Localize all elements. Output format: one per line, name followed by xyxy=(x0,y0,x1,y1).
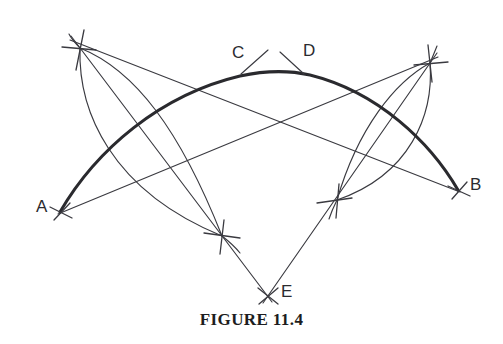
label-point-b: B xyxy=(470,176,481,193)
tick-a-stroke-2 xyxy=(54,203,70,220)
label-point-c: C xyxy=(232,44,244,61)
main-arc-a-to-b xyxy=(60,72,458,212)
chord-b-to-upper-left xyxy=(70,40,460,192)
figure-caption: FIGURE 11.4 xyxy=(0,310,503,330)
figure-container: A B C D E FIGURE 11.4 xyxy=(0,0,503,344)
label-point-a: A xyxy=(36,198,47,215)
chord-a-to-upper-right xyxy=(58,57,438,214)
stub-at-c xyxy=(241,50,268,74)
label-point-d: D xyxy=(303,42,315,59)
label-point-e: E xyxy=(281,283,292,300)
geometric-construction-svg xyxy=(0,0,503,344)
tick-p4-horizontal xyxy=(317,198,352,203)
